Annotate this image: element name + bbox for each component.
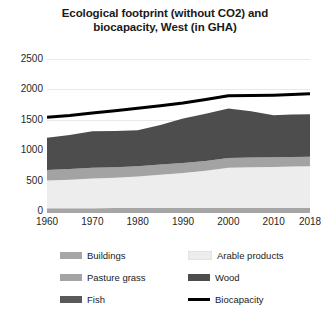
legend-item-pasture-grass[interactable]: Pasture grass [60, 272, 146, 283]
legend-swatch-icon [60, 296, 82, 303]
legend-label: Arable products [217, 250, 284, 261]
x-axis-tick-label: 1960 [36, 216, 58, 228]
chart-legend: BuildingsArable productsPasture grassWoo… [60, 250, 310, 310]
legend-label: Wood [215, 272, 240, 283]
legend-swatch-icon [188, 274, 210, 281]
chart-container: Ecological footprint (without CO2) and b… [0, 0, 328, 316]
legend-label: Biocapacity [215, 294, 264, 305]
y-axis-tick-label: 500 [0, 175, 43, 187]
legend-swatch-icon [60, 274, 82, 281]
x-axis-tick-label: 2010 [263, 216, 285, 228]
legend-label: Buildings [87, 250, 126, 261]
line-series-biocapacity [47, 94, 310, 118]
legend-item-wood[interactable]: Wood [188, 272, 240, 283]
legend-swatch-icon [188, 298, 210, 301]
y-axis-tick-label: 1000 [0, 144, 43, 156]
x-axis-tick-label: 1970 [81, 216, 103, 228]
stacked-area-series [47, 59, 310, 211]
legend-item-biocapacity[interactable]: Biocapacity [188, 294, 264, 305]
x-axis: 1960197019801990200020102018 [47, 216, 317, 232]
legend-label: Pasture grass [87, 272, 146, 283]
x-axis-tick-label: 2000 [217, 216, 239, 228]
legend-swatch-icon [60, 252, 82, 259]
legend-swatch-icon [188, 251, 212, 260]
chart-title: Ecological footprint (without CO2) and b… [22, 6, 308, 34]
legend-item-buildings[interactable]: Buildings [60, 250, 126, 261]
y-axis-tick-label: 2500 [0, 53, 43, 65]
y-axis: 05001000150020002500 [0, 52, 43, 220]
x-axis-tick-label: 1990 [172, 216, 194, 228]
legend-item-arable-products[interactable]: Arable products [188, 250, 284, 261]
chart-title-line-2: biocapacity, West (in GHA) [93, 21, 236, 33]
legend-item-fish[interactable]: Fish [60, 294, 105, 305]
y-axis-tick-label: 1500 [0, 114, 43, 126]
x-axis-tick-label: 2018 [299, 216, 321, 228]
y-axis-tick-label: 2000 [0, 83, 43, 95]
legend-label: Fish [87, 294, 105, 305]
plot-area [47, 59, 310, 211]
chart-title-line-1: Ecological footprint (without CO2) and [62, 7, 268, 19]
x-axis-tick-label: 1980 [127, 216, 149, 228]
x-axis-line [47, 211, 310, 213]
